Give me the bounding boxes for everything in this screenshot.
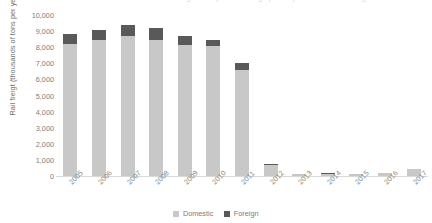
bar-segment-domestic[interactable] — [149, 40, 163, 176]
legend-swatch-icon — [173, 211, 179, 217]
y-axis-tick-label: 6,000 — [18, 75, 54, 84]
legend-swatch-icon — [224, 211, 230, 217]
bar-segment-domestic[interactable] — [235, 70, 249, 176]
bar-segment-domestic[interactable] — [206, 46, 220, 176]
legend-label: Domestic — [183, 209, 213, 218]
plot-area — [56, 15, 428, 176]
y-axis-tick-label: 0 — [18, 172, 54, 181]
bar-segment-domestic[interactable] — [63, 44, 77, 176]
bar-group[interactable] — [121, 25, 135, 176]
y-axis-tick-labels: 10,0009,0008,0007,0006,0005,0004,0003,00… — [18, 15, 54, 176]
bar-group[interactable] — [206, 40, 220, 176]
bar-segment-foreign[interactable] — [235, 63, 249, 70]
bar-segment-foreign[interactable] — [92, 30, 106, 40]
y-axis-title: Rail freigt (thousands of tons per year) — [8, 0, 17, 133]
x-axis-tick-labels: 2005200620072008200920102011201220132014… — [56, 176, 428, 208]
chart-title: Rail freight transported through ports b… — [105, 0, 425, 2]
y-axis-tick-label: 8,000 — [18, 43, 54, 52]
y-axis-tick-label: 7,000 — [18, 59, 54, 68]
y-axis-tick-label: 4,000 — [18, 107, 54, 116]
bar-group[interactable] — [235, 63, 249, 176]
y-axis-tick-label: 2,000 — [18, 139, 54, 148]
bar-group[interactable] — [149, 28, 163, 176]
bar-segment-domestic[interactable] — [92, 40, 106, 176]
y-axis-tick-label: 3,000 — [18, 123, 54, 132]
legend-label: Foreign — [234, 209, 259, 218]
y-axis-tick-label: 9,000 — [18, 27, 54, 36]
bar-segment-foreign[interactable] — [121, 25, 135, 36]
bar-group[interactable] — [63, 34, 77, 176]
bar-segment-foreign[interactable] — [178, 36, 192, 45]
y-axis-tick-label: 1,000 — [18, 155, 54, 164]
rail-freight-stacked-bar-chart: Rail freight transported through ports b… — [0, 0, 432, 223]
bar-segment-domestic[interactable] — [178, 45, 192, 176]
bar-segment-domestic[interactable] — [121, 36, 135, 176]
chart-legend: DomesticForeign — [0, 209, 432, 218]
bar-group[interactable] — [92, 30, 106, 176]
bar-series-container — [56, 15, 428, 176]
legend-item[interactable]: Foreign — [224, 209, 258, 218]
bar-segment-foreign[interactable] — [149, 28, 163, 40]
y-axis-tick-label: 5,000 — [18, 91, 54, 100]
bar-segment-foreign[interactable] — [63, 34, 77, 44]
bar-group[interactable] — [178, 36, 192, 176]
y-axis-tick-label: 10,000 — [18, 11, 54, 20]
legend-item[interactable]: Domestic — [173, 209, 213, 218]
